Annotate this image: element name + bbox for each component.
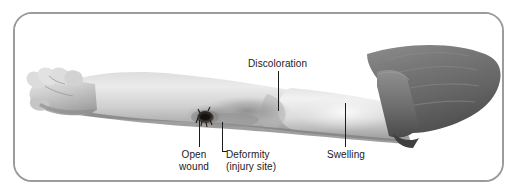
leader-line-swelling bbox=[345, 103, 346, 147]
label-swelling: Swelling bbox=[322, 149, 370, 161]
leader-line-deformity bbox=[222, 122, 223, 151]
medical-illustration-figure: Discoloration Open wound Deformity (inju… bbox=[0, 0, 519, 195]
leader-line-open-wound bbox=[199, 120, 200, 147]
label-deformity: Deformity (injury site) bbox=[226, 149, 276, 172]
label-open-wound: Open wound bbox=[172, 149, 216, 172]
leader-line-discoloration bbox=[278, 71, 279, 111]
wound-core bbox=[200, 114, 210, 120]
label-discoloration: Discoloration bbox=[248, 58, 307, 70]
